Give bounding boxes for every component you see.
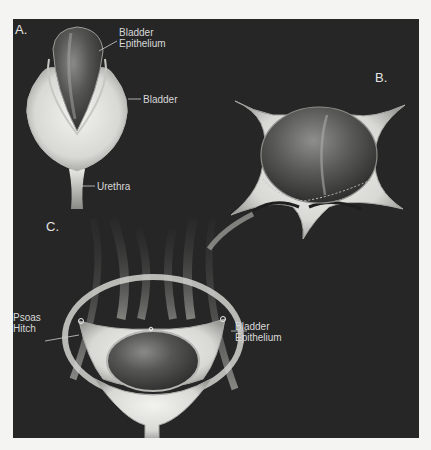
- illustration-panel: A. B. C. Bladder Epithelium Bladder Uret…: [13, 19, 419, 438]
- panel-b-drawing: [231, 101, 405, 239]
- label-a-bladder: Bladder: [143, 94, 177, 105]
- label-c-bladder-epithelium: Bladder Epithelium: [235, 321, 282, 343]
- panel-a-letter: A.: [15, 23, 27, 36]
- label-c-psoas-hitch: Psoas Hitch: [13, 312, 41, 334]
- figure: A. B. C. Bladder Epithelium Bladder Uret…: [0, 0, 431, 450]
- anatomical-illustration: [13, 19, 419, 438]
- panel-b-letter: B.: [375, 71, 387, 84]
- panel-c-drawing: [45, 214, 253, 438]
- panel-c-letter: C.: [46, 220, 59, 233]
- label-a-urethra: Urethra: [97, 181, 130, 192]
- label-a-bladder-epithelium: Bladder Epithelium: [119, 27, 166, 49]
